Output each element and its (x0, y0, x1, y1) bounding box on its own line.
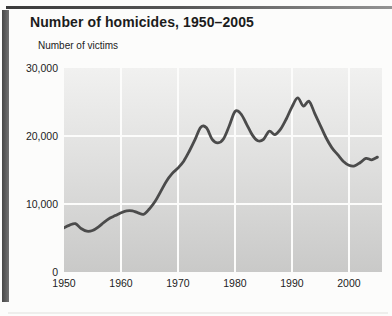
y-tick-label: 30,000 (12, 62, 58, 74)
x-tick-label: 1960 (98, 277, 144, 289)
y-tick-label: 10,000 (12, 198, 58, 210)
x-tick-label: 2000 (326, 277, 372, 289)
y-axis-title: Number of victims (38, 40, 118, 51)
top-rule (6, 6, 392, 9)
homicides-line (64, 98, 377, 231)
left-accent-bar (2, 10, 9, 302)
chart-title: Number of homicides, 1950–2005 (30, 14, 254, 30)
x-tick-label: 1970 (155, 277, 201, 289)
page-edge-artifact (8, 312, 388, 314)
x-tick-label: 1980 (212, 277, 258, 289)
x-tick-label: 1950 (41, 277, 87, 289)
line-series-svg (64, 68, 382, 272)
x-tick-label: 1990 (269, 277, 315, 289)
y-tick-label: 20,000 (12, 130, 58, 142)
plot-area (64, 68, 382, 272)
